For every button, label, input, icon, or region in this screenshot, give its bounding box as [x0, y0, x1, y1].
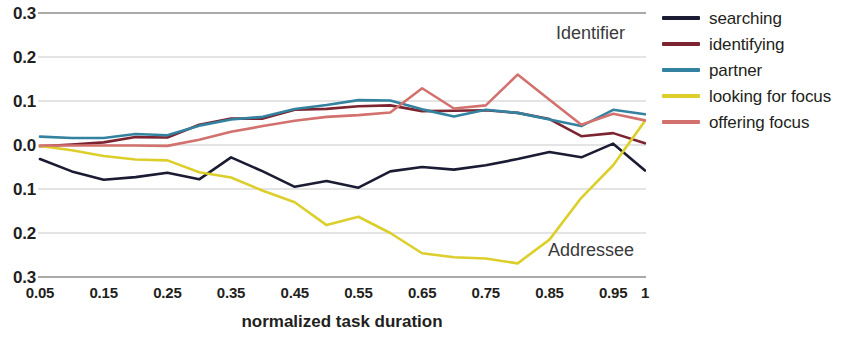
legend-item[interactable]: identifying	[662, 31, 862, 57]
legend-item-label: offering focus	[709, 114, 809, 131]
annotation-identifier: Identifier	[556, 24, 625, 42]
legend-color-swatch	[662, 42, 700, 46]
legend-item[interactable]: looking for focus	[662, 83, 862, 109]
x-axis-tick-label: 0.45	[281, 285, 309, 300]
legend-color-swatch	[662, 94, 700, 98]
x-axis-tick-label: 0.75	[472, 285, 500, 300]
legend-item-label: looking for focus	[709, 88, 831, 105]
x-axis-tick-label: 0.95	[599, 285, 627, 300]
x-axis-tick-label: 0.15	[89, 285, 117, 300]
x-axis-tick-label: 0.05	[26, 285, 54, 300]
annotation-addressee: Addressee	[548, 241, 634, 259]
y-axis-tick-label: 0.2	[2, 49, 36, 66]
chart-root: 0.30.20.10.00.10.20.3 Identifier Address…	[0, 0, 864, 337]
y-axis-tick-label: 0.2	[2, 225, 36, 242]
x-axis-title: normalized task duration	[38, 313, 646, 330]
chart-legend: searchingidentifyingpartnerlooking for f…	[662, 5, 862, 135]
plot-area: Identifier Addressee	[38, 0, 646, 290]
legend-color-swatch	[662, 120, 700, 124]
legend-item-label: searching	[709, 10, 782, 27]
series-lines	[40, 75, 645, 264]
x-axis-tick-label: 0.25	[153, 285, 181, 300]
x-axis-tick-label: 1	[641, 285, 649, 300]
series-line-searching	[40, 144, 645, 188]
y-axis-tick-label: 0.1	[2, 93, 36, 110]
y-axis-tick-label: 0.0	[2, 137, 36, 154]
y-axis-tick-label: 0.1	[2, 181, 36, 198]
y-axis-tick-label: 0.3	[2, 269, 36, 286]
legend-item[interactable]: partner	[662, 57, 862, 83]
legend-item-label: partner	[709, 62, 762, 79]
legend-item[interactable]: offering focus	[662, 109, 862, 135]
legend-color-swatch	[662, 68, 700, 72]
x-axis-tick-label: 0.35	[217, 285, 245, 300]
legend-item[interactable]: searching	[662, 5, 862, 31]
x-axis-tick-labels: 0.050.150.250.350.450.550.650.750.850.95…	[38, 285, 658, 309]
x-axis-tick-label: 0.65	[408, 285, 436, 300]
x-axis-tick-label: 0.85	[535, 285, 563, 300]
legend-item-label: identifying	[709, 36, 784, 53]
x-axis-tick-label: 0.55	[344, 285, 372, 300]
legend-color-swatch	[662, 16, 700, 20]
y-axis-tick-label: 0.3	[2, 5, 36, 22]
series-line-identifying	[40, 105, 645, 146]
series-line-partner	[40, 100, 645, 138]
